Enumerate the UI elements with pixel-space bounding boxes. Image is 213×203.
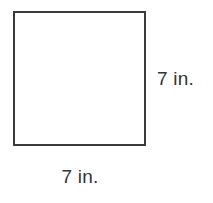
right-side-dimension-label: 7 in. (157, 68, 194, 90)
figure-canvas: 7 in. 7 in. (0, 0, 213, 203)
bottom-side-dimension-label: 7 in. (0, 166, 160, 188)
square-shape (13, 11, 146, 146)
